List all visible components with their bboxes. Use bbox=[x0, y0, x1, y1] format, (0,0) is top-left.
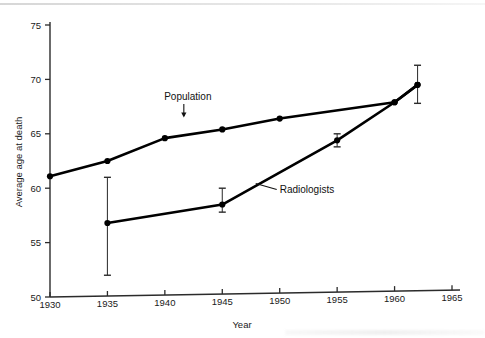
x-tick-label: 1960 bbox=[384, 293, 405, 304]
data-point-marker bbox=[414, 82, 420, 88]
x-axis-tick-labels: 19301935194019451950195519601965 bbox=[39, 292, 462, 310]
data-point-marker bbox=[162, 135, 168, 141]
y-axis-title: Average age at death bbox=[13, 117, 24, 208]
x-tick-label: 1935 bbox=[97, 298, 118, 309]
annotation-arrow-head bbox=[181, 113, 186, 118]
population-annotation: Population bbox=[164, 91, 211, 118]
data-point-marker bbox=[334, 137, 340, 143]
line-chart: 505560657075 193019351940194519501955196… bbox=[0, 0, 485, 338]
annotation-text: Radiologists bbox=[280, 184, 334, 195]
x-tick-label: 1940 bbox=[154, 297, 175, 308]
x-tick-label: 1950 bbox=[269, 295, 290, 306]
annotations-group: PopulationRadiologists bbox=[164, 91, 334, 194]
x-tick-label: 1945 bbox=[212, 296, 233, 307]
x-tick-label: 1930 bbox=[39, 299, 60, 310]
y-tick-label: 60 bbox=[30, 183, 41, 194]
y-axis-tick-labels: 505560657075 bbox=[30, 20, 41, 303]
data-point-marker bbox=[104, 158, 110, 164]
series-population bbox=[47, 82, 421, 180]
figure-container: 505560657075 193019351940194519501955196… bbox=[0, 0, 485, 338]
x-axis-title: Year bbox=[232, 319, 251, 330]
y-tick-label: 70 bbox=[30, 74, 41, 85]
data-point-marker bbox=[277, 115, 283, 121]
data-point-marker bbox=[391, 99, 397, 105]
data-point-marker bbox=[47, 173, 53, 179]
x-tick-label: 1955 bbox=[327, 294, 348, 305]
y-tick-label: 55 bbox=[30, 237, 41, 248]
annotation-leader-line bbox=[256, 184, 277, 190]
y-tick-label: 75 bbox=[30, 20, 41, 31]
x-tick-label: 1965 bbox=[441, 292, 462, 303]
data-point-marker bbox=[219, 201, 225, 207]
y-tick-label: 65 bbox=[30, 128, 41, 139]
data-point-marker bbox=[219, 126, 225, 132]
radiologists-annotation: Radiologists bbox=[256, 184, 334, 195]
data-series-group bbox=[47, 65, 421, 275]
series-radiologists bbox=[104, 65, 421, 275]
annotation-text: Population bbox=[164, 91, 211, 102]
y-axis-tick-marks bbox=[45, 25, 50, 297]
data-point-marker bbox=[104, 220, 110, 226]
